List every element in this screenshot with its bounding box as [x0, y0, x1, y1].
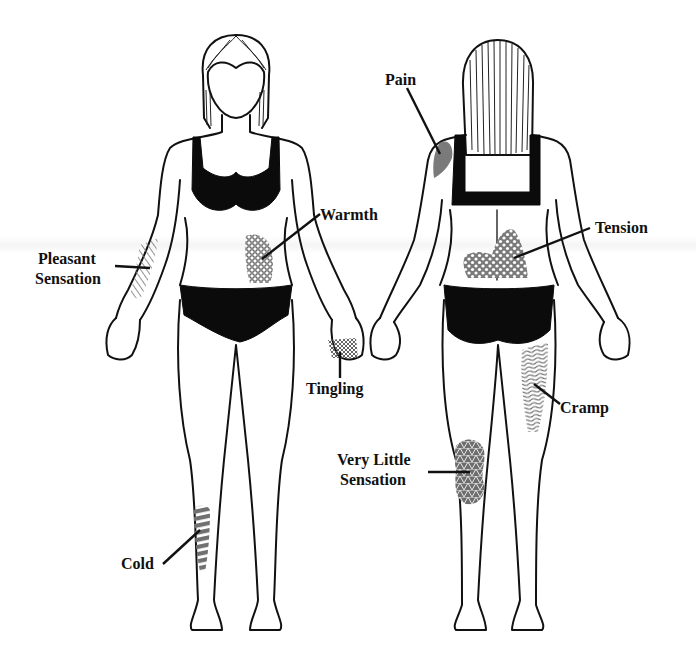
region-cramp: [521, 342, 548, 432]
label-cold: Cold: [121, 555, 154, 572]
front-hair-strands: [206, 36, 266, 126]
leader-warmth: [262, 214, 320, 259]
label-tension: Tension: [595, 219, 648, 236]
label-very-little-line2: Sensation: [340, 471, 406, 488]
leader-tension: [514, 228, 590, 258]
front-face: [208, 62, 264, 118]
body-sensation-diagram: Pleasant Sensation Warmth Tingling Cold …: [0, 0, 696, 670]
label-very-little-line1: Very Little: [337, 451, 411, 469]
region-warmth: [245, 234, 273, 283]
label-warmth: Warmth: [320, 206, 378, 223]
region-pleasant-sensation: [130, 238, 158, 300]
label-tingling: Tingling: [306, 380, 364, 398]
back-right-hand: [600, 318, 630, 360]
back-left-hand: [370, 318, 400, 360]
leader-pain: [407, 88, 440, 154]
region-tingling: [328, 338, 358, 358]
front-bra: [192, 137, 280, 210]
front-waist: [180, 218, 292, 285]
back-hair-strands: [470, 41, 529, 155]
label-pain: Pain: [385, 71, 416, 88]
front-legs: [178, 300, 294, 630]
leader-cold: [163, 530, 200, 564]
label-cramp: Cramp: [560, 399, 609, 417]
front-briefs: [180, 285, 292, 342]
region-tension: [464, 229, 528, 278]
front-right-hand: [106, 318, 140, 360]
label-pleasant-line1: Pleasant: [38, 250, 96, 267]
label-pleasant-line2: Sensation: [35, 270, 101, 287]
front-figure: [106, 35, 363, 630]
back-briefs: [444, 285, 554, 343]
back-figure: [370, 40, 629, 630]
